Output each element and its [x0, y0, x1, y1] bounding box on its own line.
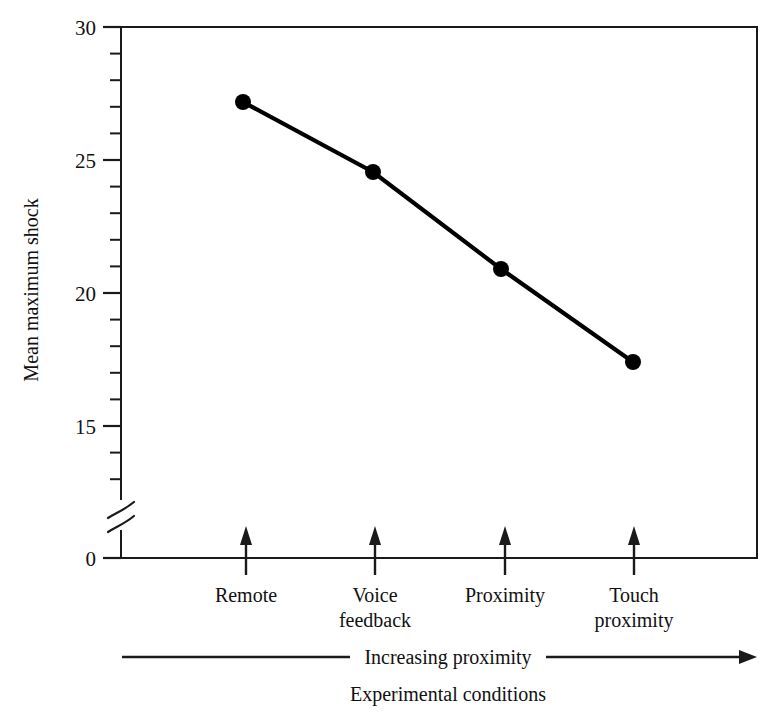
data-series-mean-maximum-shock: [235, 94, 641, 370]
y-axis-title: Mean maximum shock: [20, 198, 42, 381]
increasing-proximity-label: Increasing proximity: [364, 646, 531, 669]
arrow-up-voice-feedback: [369, 526, 381, 575]
data-point-touch-proximity: [625, 354, 641, 370]
y-axis-break-icon: [108, 502, 134, 532]
plot-frame: [121, 27, 757, 558]
condition-label-remote: Remote: [215, 584, 277, 606]
condition-label-touch: Touch: [609, 584, 659, 606]
condition-label-touch-proximity: proximity: [595, 609, 674, 632]
data-point-voice-feedback: [365, 164, 381, 180]
arrow-up-proximity: [499, 526, 511, 575]
series-polyline: [243, 102, 633, 362]
condition-label-voice: Voice: [352, 584, 397, 606]
y-axis-minor-ticks: [110, 54, 121, 480]
data-point-remote: [235, 94, 251, 110]
mean-maximum-shock-line-chart: 30 25 20 15 0 Mean maximum shock: [0, 0, 781, 715]
x-axis-title: Experimental conditions: [350, 683, 546, 706]
y-tick-label-30: 30: [75, 16, 96, 40]
condition-label-feedback: feedback: [339, 609, 411, 631]
y-tick-label-25: 25: [75, 149, 96, 173]
figure-container: 30 25 20 15 0 Mean maximum shock: [0, 0, 781, 715]
y-tick-label-15: 15: [75, 415, 96, 439]
y-tick-label-0: 0: [86, 547, 97, 571]
y-tick-label-20: 20: [75, 282, 96, 306]
data-point-proximity: [493, 261, 509, 277]
arrow-up-touch-proximity: [628, 526, 640, 575]
condition-label-proximity: Proximity: [465, 584, 545, 607]
arrow-up-remote: [240, 526, 252, 575]
condition-pointer-arrows: [240, 526, 640, 575]
